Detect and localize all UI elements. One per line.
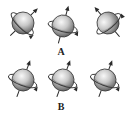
spin-diagram [0,0,133,118]
spin-sphere-a-1 [0,0,50,48]
spin-sphere-a-3 [83,0,133,46]
spin-sphere-b-3 [85,55,128,103]
row-b-label: B [58,102,65,112]
spin-sphere-b-1 [3,55,46,103]
spin-sphere-a-2 [44,2,85,48]
row-a-label: A [57,47,64,57]
spin-sphere-b-2 [43,55,86,103]
